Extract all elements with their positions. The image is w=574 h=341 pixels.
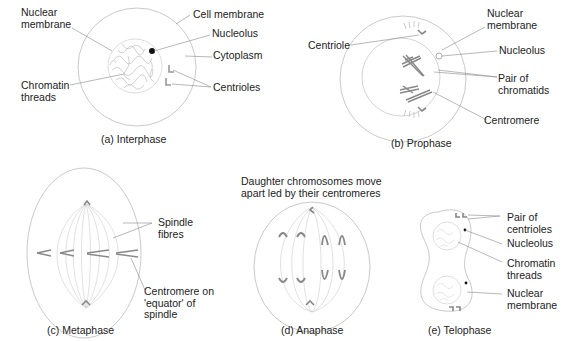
- nuclear-membrane: [362, 38, 440, 116]
- label-centromere-b: Centromere: [484, 115, 539, 127]
- label-centromere-equator-c: Centromere on 'equator' of spindle: [144, 286, 214, 321]
- label-centriole-b: Centriole: [308, 40, 350, 52]
- prophase-cell: [340, 16, 466, 142]
- nucleus-bottom: [433, 276, 461, 304]
- chromosomes-on-equator: [37, 250, 138, 257]
- label-centrioles-a: Centrioles: [213, 82, 260, 94]
- label-spindle-fibres-c: Spindle fibres: [158, 217, 193, 240]
- label-pair-of-centrioles-e: Pair of centrioles: [507, 212, 552, 235]
- cell-membrane: [27, 168, 141, 338]
- label-daughter-chromosomes-d: Daughter chromosomes move apart led by t…: [241, 176, 382, 199]
- spindle-fibres: [281, 207, 345, 312]
- spindle-fibres: [57, 204, 118, 308]
- telophase-leaders: [458, 215, 502, 294]
- label-nuclear-membrane-b: Nuclear membrane: [487, 8, 537, 31]
- cell-membrane: [340, 16, 466, 142]
- caption-anaphase: (d) Anaphase: [281, 324, 343, 336]
- label-nucleolus-e: Nucleolus: [507, 238, 553, 250]
- caption-metaphase: (c) Metaphase: [47, 324, 114, 336]
- label-nuclear-membrane-e: Nuclear membrane: [507, 288, 557, 311]
- cell-membrane: [78, 8, 196, 126]
- label-chromatin-threads-e: Chromatin threads: [507, 258, 555, 281]
- label-pair-of-chromatids-b: Pair of chromatids: [498, 73, 549, 96]
- caption-telophase: (e) Telophase: [428, 324, 491, 336]
- telophase-cell: [420, 210, 472, 311]
- chromatid-pairs: [400, 55, 432, 102]
- caption-interphase: (a) Interphase: [101, 133, 166, 145]
- label-cell-membrane-a: Cell membrane: [193, 9, 264, 21]
- label-chromatin-threads-a: Chromatin threads: [21, 80, 69, 103]
- cell-membrane: [254, 202, 370, 332]
- label-cytoplasm-a: Cytoplasm: [213, 50, 263, 62]
- nucleolus: [436, 53, 442, 59]
- interphase-cell: [78, 8, 196, 126]
- label-nucleolus-a: Nucleolus: [212, 28, 258, 40]
- interphase-leaders: [70, 15, 212, 87]
- anaphase-cell: [254, 202, 370, 332]
- metaphase-cell: [27, 168, 141, 338]
- caption-prophase: (b) Prophase: [391, 137, 452, 149]
- nucleus-chromatin: [108, 39, 162, 93]
- mitosis-diagram-art: [0, 0, 574, 341]
- centrioles: [166, 65, 174, 85]
- prophase-leaders: [351, 27, 497, 120]
- daughter-chromosomes: [279, 233, 345, 282]
- label-nuclear-membrane-a: Nuclear membrane: [21, 7, 71, 30]
- nucleus-top: [433, 222, 461, 250]
- label-nucleolus-b: Nucleolus: [499, 45, 545, 57]
